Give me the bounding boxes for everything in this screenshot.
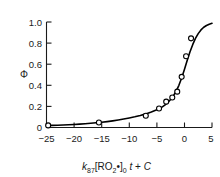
data-point-marker [157,106,162,111]
y-tick-label: 0.8 [29,38,42,49]
data-point-marker [170,95,175,100]
y-tick-label: 1.0 [29,17,42,28]
x-tick-label: −10 [121,133,137,144]
x-tick-label: 0 [182,133,187,144]
y-tick-label: 0.6 [29,59,42,70]
y-axis-label: Φ [20,69,28,80]
y-tick-label: 0 [37,122,42,133]
data-point-marker [179,74,184,79]
data-point-marker [184,54,189,59]
data-point-marker [46,123,51,128]
x-label-C: C [144,161,152,172]
data-point-marker [143,113,148,118]
x-label-k-subscript: 87 [87,167,95,174]
x-label-species: RO [98,161,113,172]
data-point-marker [189,36,194,41]
x-tick-label: 5 [208,133,213,144]
data-point-marker [164,99,169,104]
y-tick-label: 0.4 [29,80,42,91]
x-tick-label: −15 [94,133,110,144]
x-tick-label: −25 [38,133,54,144]
x-tick-label: −5 [151,133,162,144]
y-tick-label: 0.2 [29,101,42,112]
data-point-marker [96,120,101,125]
data-point-marker [175,89,180,94]
chart-figure: 1.0 0.8 0.6 0.4 0.2 0 −25 −20 −15 −10 −5… [0,0,220,177]
x-tick-label: −20 [66,133,82,144]
chart-svg: 1.0 0.8 0.6 0.4 0.2 0 −25 −20 −15 −10 −5… [0,0,220,177]
